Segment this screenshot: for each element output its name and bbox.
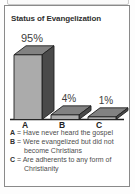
chart-legend: A = Have never heard the gospel B = Were… — [10, 128, 124, 173]
legend-text-b: Were evangelized but did not become Chri… — [23, 138, 114, 154]
bar-B-front-face — [51, 115, 79, 120]
equals-separator: = — [17, 156, 21, 163]
bar-chart: 1%C4%B95%A — [8, 31, 130, 131]
page: Status of Evangelization 1%C4%B95%A A = … — [0, 0, 135, 194]
legend-text-c: Are adherents to any form of Christianit… — [23, 156, 112, 172]
legend-text-a: Have never heard the gospel — [23, 129, 113, 136]
legend-key-b: B — [10, 138, 15, 145]
legend-item-b: B = Were evangelized but did not become … — [10, 137, 124, 155]
equals-separator: = — [17, 129, 21, 136]
equals-separator: = — [17, 138, 21, 145]
bar-A-front-face — [14, 55, 42, 120]
chart-title: Status of Evangelization — [11, 14, 123, 23]
bar-A-side-face — [42, 46, 54, 120]
value-label-B: 4% — [62, 93, 77, 104]
legend-item-c: C = Are adherents to any form of Christi… — [10, 155, 124, 173]
evangelization-status-panel: Status of Evangelization 1%C4%B95%A A = … — [4, 5, 130, 187]
legend-item-a: A = Have never heard the gospel — [10, 128, 124, 137]
value-label-C: 1% — [99, 95, 114, 106]
value-label-A: 95% — [21, 32, 43, 44]
legend-key-c: C — [10, 156, 15, 163]
legend-key-a: A — [10, 129, 15, 136]
